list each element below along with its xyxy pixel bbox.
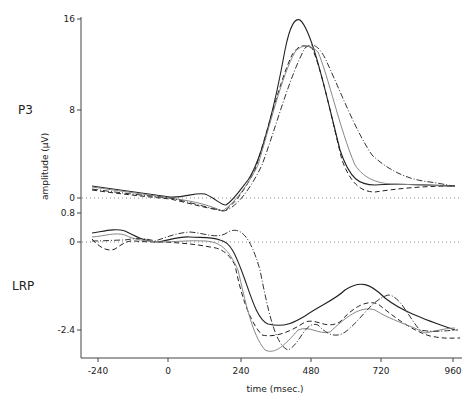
p3-gray-line	[92, 46, 455, 211]
y-ticks	[77, 19, 81, 330]
xtick-label: 0	[165, 366, 171, 376]
p3-dashdot-line	[92, 45, 455, 211]
erp-chart: 16 8 0 0.8 0 -2.4 -240 0 240 480 720 960…	[0, 0, 472, 399]
p3-waveforms	[92, 20, 455, 211]
ytick-p3-0: 0	[69, 193, 75, 203]
xtick-label: 240	[232, 366, 249, 376]
lrp-dashdot-line	[92, 230, 458, 350]
p3-dashed-line	[92, 46, 455, 211]
ytick-16: 16	[64, 14, 76, 24]
panel-label-p3: P3	[18, 103, 33, 117]
xtick-label: 960	[444, 366, 461, 376]
lrp-dashed-line	[92, 239, 460, 338]
x-ticks	[98, 358, 453, 362]
ytick-lrp-0: 0	[69, 237, 75, 247]
lrp-gray-line	[92, 234, 455, 351]
xtick-label: 480	[302, 366, 319, 376]
ytick-neg2.4: -2.4	[57, 325, 75, 335]
lrp-solid-line	[92, 230, 455, 330]
panel-label-lrp: LRP	[12, 279, 34, 293]
xtick-label: -240	[88, 366, 109, 376]
y-axis-title: amplitude (μV)	[40, 133, 50, 200]
xtick-label: 720	[372, 366, 389, 376]
ytick-0.8: 0.8	[61, 208, 76, 218]
x-axis-title: time (msec.)	[246, 384, 303, 394]
lrp-waveforms	[92, 230, 460, 352]
ytick-8: 8	[69, 105, 75, 115]
